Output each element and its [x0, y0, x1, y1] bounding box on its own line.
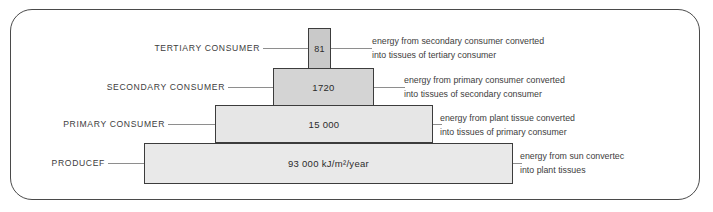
annotation-producer-line1: energy from sun convertec [520, 150, 624, 164]
trophic-label-producer: PRODUCEF [0, 158, 105, 168]
pyramid-bar-value-secondary: 1720 [312, 82, 334, 93]
leader-line-right-tertiary [330, 48, 372, 49]
pyramid-bar-value-tertiary: 81 [314, 44, 325, 54]
annotation-secondary-consumer: energy from primary consumer converted i… [404, 74, 565, 101]
energy-pyramid-figure: 81 1720 15 000 93 000 kJ/m²/year TERTIAR… [0, 0, 713, 212]
annotation-secondary-line1: energy from primary consumer converted [404, 74, 565, 88]
leader-line-right-secondary [373, 87, 405, 88]
annotation-primary-line2: into tissues of primary consumer [440, 126, 575, 140]
trophic-label-tertiary-consumer: TERTIARY CONSUMER [0, 43, 260, 53]
leader-line-left-primary [168, 124, 216, 125]
pyramid-bar-value-primary: 15 000 [309, 119, 340, 130]
annotation-producer-line2: into plant tissues [520, 164, 624, 178]
trophic-label-primary-consumer: PRIMARY CONSUMER [0, 119, 165, 129]
pyramid-bar-secondary-consumer: 1720 [273, 68, 374, 106]
leader-line-left-producer [108, 163, 145, 164]
annotation-secondary-line2: into tissues of secondary consumer [404, 88, 565, 102]
pyramid-bar-value-producer: 93 000 kJ/m²/year [288, 158, 369, 169]
annotation-tertiary-consumer: energy from secondary consumer converted… [372, 35, 544, 62]
leader-line-left-secondary [228, 87, 274, 88]
pyramid-bar-tertiary-consumer: 81 [308, 28, 331, 69]
annotation-tertiary-line1: energy from secondary consumer converted [372, 35, 544, 49]
pyramid-bar-primary-consumer: 15 000 [215, 105, 433, 143]
annotation-producer: energy from sun convertec into plant tis… [520, 150, 624, 177]
pyramid-bar-producer: 93 000 kJ/m²/year [144, 143, 513, 184]
annotation-tertiary-line2: into tissues of tertiary consumer [372, 49, 544, 63]
trophic-label-secondary-consumer: SECONDARY CONSUMER [0, 82, 225, 92]
leader-line-left-tertiary [263, 48, 309, 49]
annotation-primary-consumer: energy from plant tissue converted into … [440, 112, 575, 139]
annotation-primary-line1: energy from plant tissue converted [440, 112, 575, 126]
